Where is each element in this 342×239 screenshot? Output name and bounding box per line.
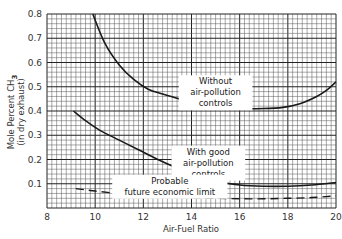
annotation-text: Probable (151, 176, 188, 186)
y-tick-label: 0.3 (28, 130, 42, 140)
annotations: Withoutair-pollutioncontrolsWith goodair… (112, 75, 252, 198)
x-tick-label: 20 (330, 212, 342, 222)
y-tick-label: 0.7 (28, 33, 42, 43)
annotation-text: Without (199, 76, 233, 86)
x-tick-label: 18 (282, 212, 294, 222)
annotation-text: future economic limit (124, 187, 215, 197)
y-axis-ticks: 0.10.20.30.40.50.60.70.8 (28, 9, 43, 189)
x-tick-label: 16 (234, 212, 246, 222)
x-tick-label: 10 (89, 212, 101, 222)
y-tick-label: 0.5 (28, 82, 42, 92)
annotation-text: With good (187, 147, 230, 157)
y-tick-label: 0.6 (28, 58, 43, 68)
annotation-text: controls (199, 98, 233, 108)
x-tick-label: 12 (138, 212, 149, 222)
y-tick-label: 0.4 (28, 106, 43, 116)
y-axis-label-text: Mole Percent CH (6, 80, 16, 150)
y-tick-label: 0.1 (28, 179, 42, 189)
y-tick-label: 0.8 (28, 9, 43, 19)
x-axis-ticks: 8101214161820 (44, 212, 342, 222)
y-axis-label: Mole Percent CH3 (in dry exhaust) (6, 75, 26, 150)
x-tick-label: 14 (186, 212, 198, 222)
x-tick-label: 8 (44, 212, 50, 222)
annotation-text: air-pollution (183, 158, 234, 168)
y-tick-label: 0.2 (28, 155, 42, 165)
x-axis-label: Air-Fuel Ratio (163, 224, 219, 234)
chart: 0.10.20.30.40.50.60.70.8 8101214161820 A… (0, 0, 342, 239)
annotation-text: air-pollution (190, 87, 241, 97)
y-axis-label-sub: (in dry exhaust) (16, 78, 26, 146)
